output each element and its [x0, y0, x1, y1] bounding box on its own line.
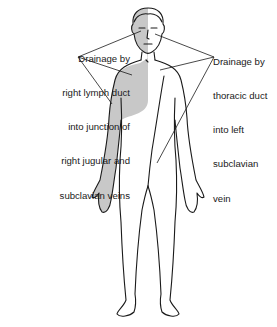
label-line: Drainage by	[213, 56, 267, 67]
label-line: vein	[213, 193, 267, 204]
label-right-lymph-duct: Drainage by right lymph duct into juncti…	[6, 30, 130, 213]
label-thoracic-duct: Drainage by thoracic duct into left subc…	[213, 33, 267, 216]
label-line: thoracic duct	[213, 90, 267, 101]
label-line: into left	[213, 124, 267, 135]
label-line: right jugular and	[6, 155, 130, 166]
label-line: Drainage by	[6, 53, 130, 64]
label-line: right lymph duct	[6, 87, 130, 98]
label-line: subclavian veins	[6, 190, 130, 201]
label-line: into junction of	[6, 121, 130, 132]
label-line: subclavian	[213, 158, 267, 169]
